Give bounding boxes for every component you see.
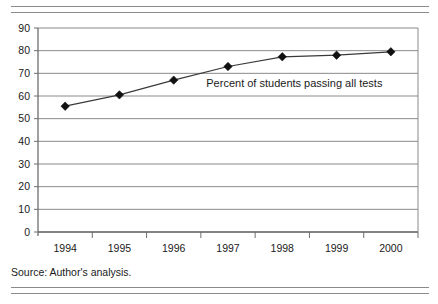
x-axis-tick-label: 1996 (162, 242, 186, 254)
data-point-marker (115, 91, 123, 99)
y-axis-tick-label: 40 (18, 135, 30, 147)
top-rule-lower (11, 12, 429, 13)
y-axis-tick-label: 80 (18, 44, 30, 56)
data-point-marker (278, 53, 286, 61)
x-axis-tick-label: 1995 (108, 242, 132, 254)
y-axis-tick-label: 10 (18, 203, 30, 215)
x-axis-tick-label: 1998 (271, 242, 295, 254)
bottom-rule-upper (11, 287, 429, 288)
bottom-rule-lower (11, 293, 429, 294)
y-axis-tick-label: 70 (18, 67, 30, 79)
y-axis-tick-label: 20 (18, 180, 30, 192)
top-rule-upper (11, 6, 429, 7)
series-annotation-label: Percent of students passing all tests (206, 77, 383, 89)
data-point-marker (332, 51, 340, 59)
source-note: Source: Author's analysis. (11, 266, 131, 278)
data-point-marker (224, 62, 232, 70)
y-axis-tick-label: 60 (18, 90, 30, 102)
data-point-marker (61, 102, 69, 110)
data-point-marker (387, 48, 395, 56)
y-axis-tick-label: 30 (18, 158, 30, 170)
y-axis-tick-label: 0 (24, 226, 30, 238)
y-axis-tick-label: 50 (18, 112, 30, 124)
y-axis-tick-label: 90 (18, 22, 30, 34)
x-axis-tick-label: 1997 (216, 242, 240, 254)
chart-plot-area: 0102030405060708090199419951996199719981… (0, 22, 438, 254)
line-chart: 0102030405060708090199419951996199719981… (0, 22, 438, 254)
data-point-marker (170, 76, 178, 84)
x-axis-tick-label: 1994 (53, 242, 77, 254)
figure-container: 0102030405060708090199419951996199719981… (0, 0, 438, 304)
x-axis-tick-label: 1999 (325, 242, 349, 254)
x-axis-tick-label: 2000 (379, 242, 403, 254)
